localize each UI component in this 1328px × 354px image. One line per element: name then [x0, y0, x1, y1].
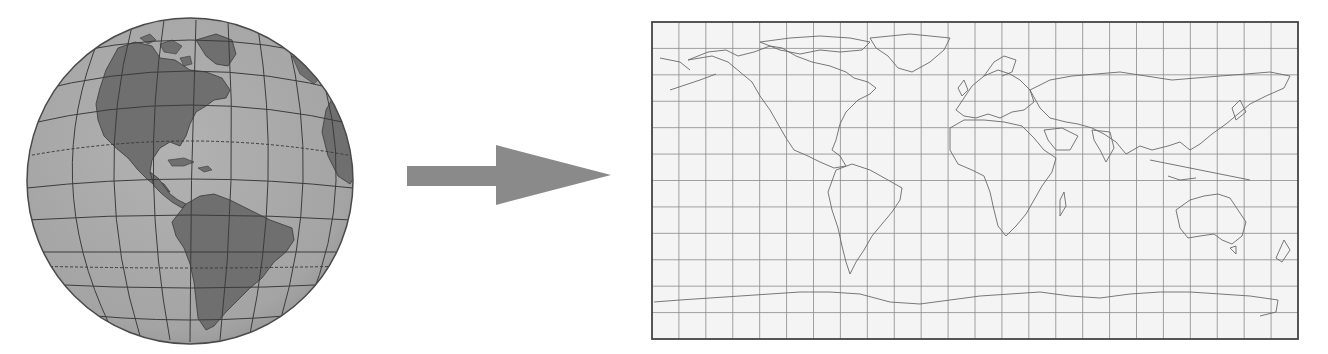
transformation-arrow [390, 130, 630, 230]
right-arrow-icon [390, 130, 630, 230]
flat-world-map [640, 10, 1320, 350]
world-map-svg [640, 10, 1320, 350]
globe-illustration [0, 0, 380, 354]
globe-svg [0, 0, 380, 354]
